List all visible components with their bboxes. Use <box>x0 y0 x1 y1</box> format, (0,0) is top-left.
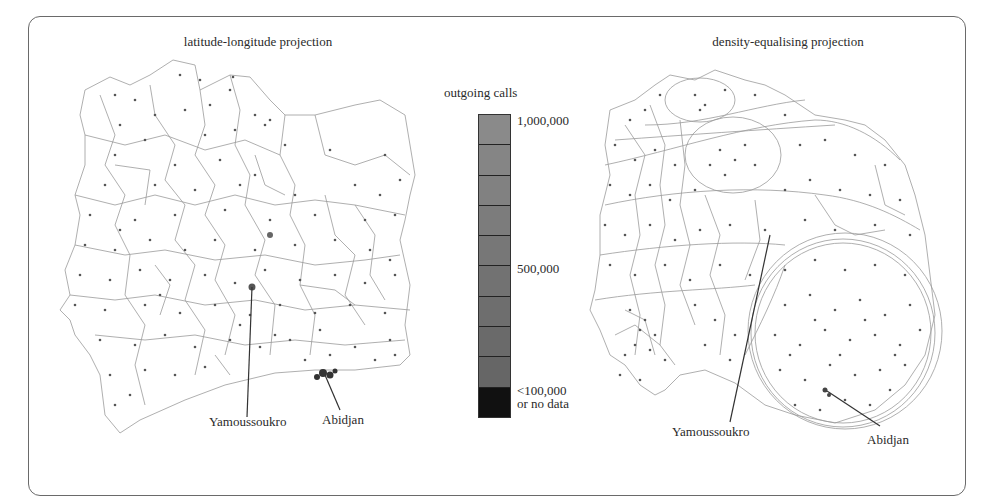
legend-segment <box>479 115 510 145</box>
lat-long-map <box>55 55 425 445</box>
density-equalising-map <box>585 65 950 445</box>
legend-title: outgoing calls <box>444 85 517 101</box>
right-label-yamoussoukro: Yamoussoukro <box>672 424 749 440</box>
right-label-abidjan: Abidjan <box>867 432 909 448</box>
legend-colorbar <box>478 114 511 418</box>
legend-no-data-label: or no data <box>517 397 569 410</box>
legend-mid-label: 500,000 <box>517 262 559 275</box>
legend-segment <box>479 327 510 357</box>
left-label-abidjan: Abidjan <box>322 412 364 428</box>
legend-segment <box>479 176 510 206</box>
legend-max-label: 1,000,000 <box>517 114 569 127</box>
left-panel-title: latitude-longitude projection <box>184 34 332 50</box>
legend-segment <box>479 236 510 266</box>
legend-segment-no-data <box>479 388 510 417</box>
legend-segment <box>479 297 510 327</box>
legend-segment <box>479 206 510 236</box>
legend-segment <box>479 145 510 175</box>
right-panel-title: density-equalising projection <box>712 34 863 50</box>
legend-segment <box>479 266 510 296</box>
left-label-yamoussoukro: Yamoussoukro <box>209 414 286 430</box>
legend-segment <box>479 357 510 387</box>
